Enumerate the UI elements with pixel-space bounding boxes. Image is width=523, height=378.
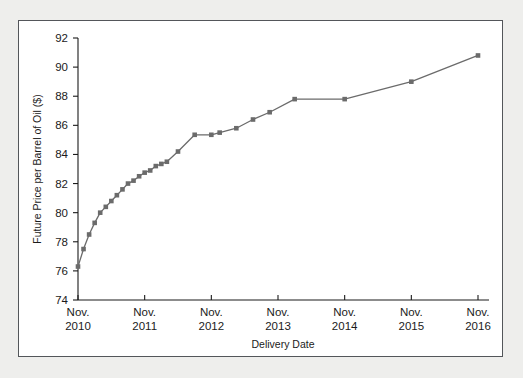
data-point-marker: [165, 159, 170, 164]
y-tick-label: 90: [55, 61, 68, 73]
data-point-marker: [131, 178, 136, 183]
y-tick-label: 84: [55, 148, 68, 160]
x-tick-label-month: Nov.: [200, 306, 223, 318]
data-point-marker: [81, 247, 86, 252]
y-tick-label: 78: [55, 236, 68, 248]
series-markers-oil-futures: [76, 53, 481, 269]
x-tick-label-month: Nov.: [67, 306, 90, 318]
x-tick-label-year: 2013: [265, 320, 291, 332]
data-point-marker: [109, 199, 114, 204]
x-tick-label-month: Nov.: [267, 306, 290, 318]
series-line-oil-futures: [78, 55, 478, 266]
data-point-marker: [76, 264, 81, 269]
data-point-marker: [142, 170, 147, 175]
data-point-marker: [137, 174, 142, 179]
data-point-marker: [251, 117, 256, 122]
data-point-marker: [409, 79, 414, 84]
y-axis-tick-labels: 74767880828486889092: [55, 32, 68, 306]
data-point-marker: [159, 162, 164, 167]
x-tick-label-year: 2011: [132, 320, 157, 332]
y-tick-label: 86: [55, 119, 68, 131]
x-tick-label-month: Nov.: [133, 306, 156, 318]
data-point-marker: [92, 221, 97, 226]
x-tick-label-year: 2012: [199, 320, 225, 332]
y-axis-ticks: [73, 38, 78, 300]
x-tick-label-year: 2015: [399, 320, 425, 332]
data-point-marker: [292, 97, 297, 102]
x-axis-ticks: [78, 295, 478, 300]
data-point-marker: [115, 193, 120, 198]
y-tick-label: 92: [55, 32, 68, 44]
y-tick-label: 82: [55, 178, 68, 190]
data-point-marker: [209, 132, 214, 137]
x-axis-tick-labels: Nov.2010Nov.2011Nov.2012Nov.2013Nov.2014…: [65, 306, 491, 332]
y-tick-label: 74: [55, 294, 68, 306]
data-point-marker: [148, 168, 153, 173]
x-tick-label-year: 2014: [332, 320, 358, 332]
data-point-marker: [154, 164, 159, 169]
data-point-marker: [104, 205, 109, 210]
data-point-marker: [267, 110, 272, 115]
x-tick-label-year: 2016: [465, 320, 491, 332]
x-tick-label-month: Nov.: [467, 306, 490, 318]
data-point-marker: [476, 53, 481, 58]
data-point-marker: [120, 187, 125, 192]
data-point-marker: [176, 149, 181, 154]
x-tick-label-month: Nov.: [333, 306, 356, 318]
data-point-marker: [126, 181, 131, 186]
y-tick-label: 88: [55, 90, 68, 102]
y-tick-label: 80: [55, 207, 68, 219]
figure-root: 74767880828486889092 Nov.2010Nov.2011Nov…: [0, 0, 523, 378]
line-chart: 74767880828486889092 Nov.2010Nov.2011Nov…: [0, 0, 523, 378]
data-point-marker: [192, 132, 197, 137]
y-axis-title: Future Price per Barrel of Oil ($): [31, 94, 43, 243]
x-tick-label-year: 2010: [65, 320, 91, 332]
data-point-marker: [98, 210, 103, 215]
data-point-marker: [342, 97, 347, 102]
data-point-marker: [234, 126, 239, 131]
x-tick-label-month: Nov.: [400, 306, 423, 318]
data-point-marker: [217, 130, 222, 135]
y-tick-label: 76: [55, 265, 68, 277]
x-axis-title: Delivery Date: [251, 338, 314, 350]
plot-area: 74767880828486889092 Nov.2010Nov.2011Nov…: [55, 32, 491, 332]
data-point-marker: [87, 232, 92, 237]
